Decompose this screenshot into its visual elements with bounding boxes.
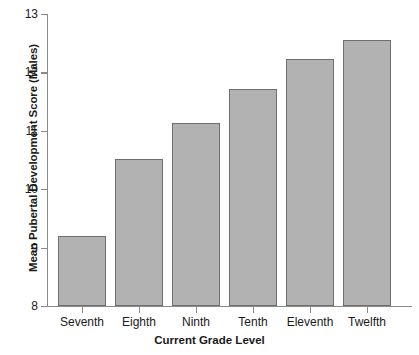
x-tick-mark [82,307,83,313]
y-tick-label: 9 [0,242,38,254]
bar-tenth [229,89,277,306]
x-tick-mark [367,307,368,313]
x-tick-label-twelfth: Twelfth [322,315,412,329]
x-axis-title: Current Grade Level [0,334,419,346]
plot-area [47,14,412,306]
y-tick-label: 12 [0,66,38,78]
x-tick-mark [253,307,254,313]
x-axis-line [47,306,412,307]
bar-eleventh [286,59,334,306]
bar-chart: Mean Pubertal Development Score (Males) … [0,0,419,355]
bar-seventh [58,236,106,306]
y-tick-label: 13 [0,8,38,20]
bar-ninth [172,123,220,306]
bar-eighth [115,159,163,306]
y-tick-label: 10 [0,183,38,195]
y-axis-title: Mean Pubertal Development Score (Males) [27,8,39,308]
bar-twelfth [343,40,391,306]
x-tick-mark [139,307,140,313]
x-tick-mark [196,307,197,313]
y-tick-label: 11 [0,125,38,137]
x-tick-mark [310,307,311,313]
y-tick-label: 8 [0,300,38,312]
y-tick-mark [41,306,47,307]
